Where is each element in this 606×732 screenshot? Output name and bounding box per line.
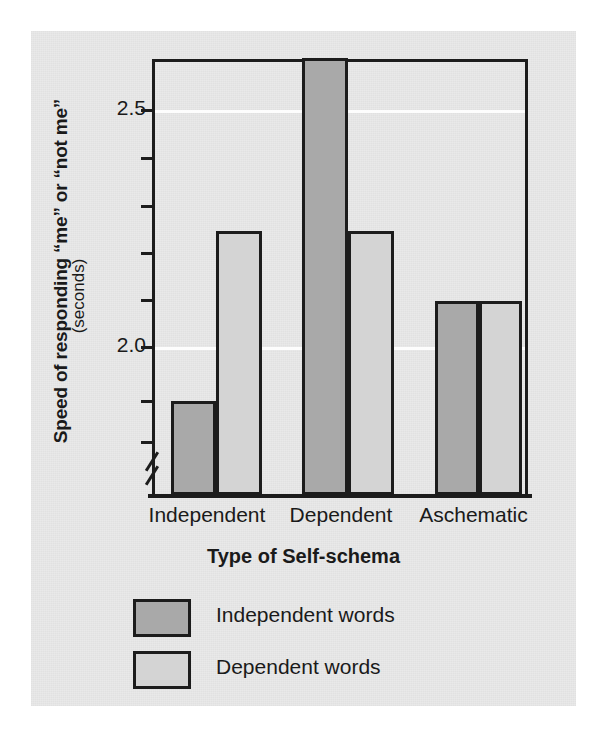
bar-series-layer: [0, 0, 606, 496]
legend-label-independent-words: Independent words: [216, 603, 395, 627]
x-axis-line: [148, 494, 532, 498]
x-tick-label-aschematic: Aschematic: [406, 503, 541, 527]
legend: Independent words Dependent words: [133, 595, 473, 699]
figure-root: Speed of responding “me” or “not me” (se…: [0, 0, 606, 732]
x-tick-label-dependent: Dependent: [276, 503, 406, 527]
x-tick-label-independent: Independent: [142, 503, 272, 527]
bar-independent-dependent-words[interactable]: [216, 231, 262, 495]
legend-swatch-dependent-words: [133, 651, 191, 689]
x-axis-title: Type of Self-schema: [31, 545, 576, 568]
bar-independent-independent-words[interactable]: [171, 401, 216, 495]
legend-item-independent-words[interactable]: Independent words: [133, 595, 473, 647]
legend-item-dependent-words[interactable]: Dependent words: [133, 647, 473, 699]
legend-label-dependent-words: Dependent words: [216, 655, 381, 679]
bar-aschematic-independent-words[interactable]: [435, 301, 479, 495]
legend-swatch-independent-words: [133, 599, 191, 637]
bar-dependent-independent-words[interactable]: [302, 58, 348, 495]
x-tick-label-group: Independent Dependent Aschematic: [148, 503, 532, 533]
bar-aschematic-dependent-words[interactable]: [479, 301, 522, 495]
bar-dependent-dependent-words[interactable]: [348, 231, 394, 495]
